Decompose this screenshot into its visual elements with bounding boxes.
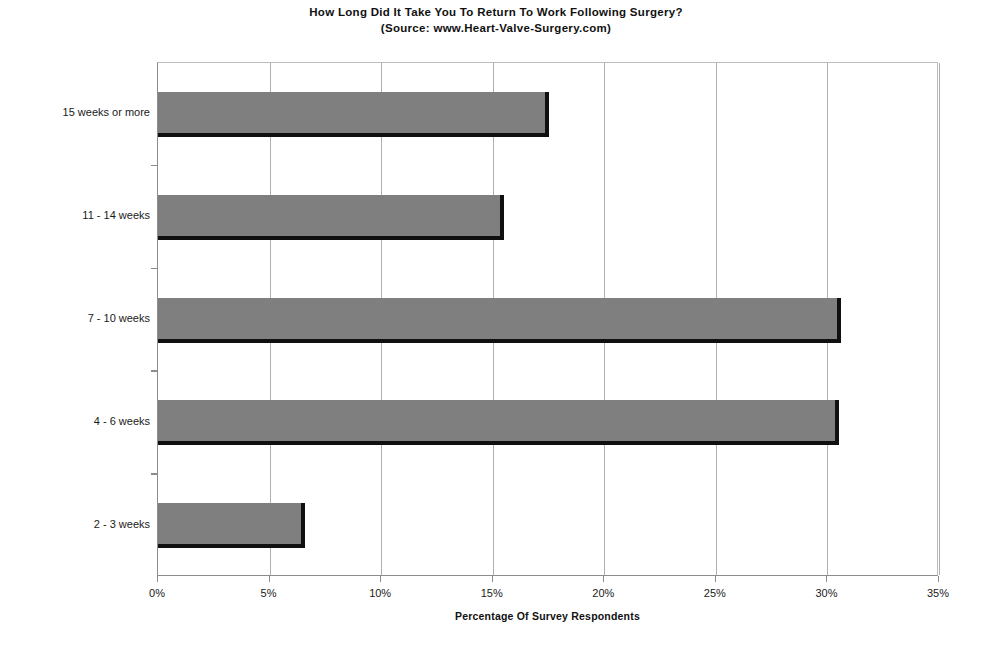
x-axis-tick-mark: [157, 576, 158, 582]
y-axis-tick-mark: [151, 268, 157, 270]
x-axis-tick-label: 5%: [239, 587, 299, 599]
bar-11-14-weeks[interactable]: [158, 195, 504, 240]
y-axis-tick-label: 4 - 6 weeks: [0, 415, 150, 427]
x-axis-tick-label: 30%: [796, 587, 856, 599]
bar-2-3-weeks[interactable]: [158, 503, 305, 548]
y-axis-tick-label: 7 - 10 weeks: [0, 312, 150, 324]
chart-title-line: How Long Did It Take You To Return To Wo…: [0, 4, 992, 20]
x-axis-tick-mark: [938, 576, 939, 582]
x-axis-tick-label: 25%: [685, 587, 745, 599]
y-axis-tick-mark: [151, 165, 157, 167]
x-axis-tick-label: 15%: [462, 587, 522, 599]
x-axis-tick-mark: [715, 576, 716, 582]
y-axis-category-labels: 2 - 3 weeks4 - 6 weeks7 - 10 weeks11 - 1…: [0, 62, 150, 576]
plot-area: [157, 62, 938, 576]
gridline: [939, 63, 940, 575]
x-axis-tick-label: 0%: [127, 587, 187, 599]
x-axis-tick-mark: [603, 576, 604, 582]
x-axis-tick-label: 10%: [350, 587, 410, 599]
chart-subtitle-line: (Source: www.Heart-Valve-Surgery.com): [0, 20, 992, 36]
x-axis-tick-label: 20%: [573, 587, 633, 599]
x-axis-tick-mark: [826, 576, 827, 582]
x-axis-tick-mark: [380, 576, 381, 582]
bar-4-6-weeks[interactable]: [158, 400, 839, 445]
y-axis-tick-label: 2 - 3 weeks: [0, 518, 150, 530]
bar-7-10-weeks[interactable]: [158, 298, 841, 343]
page-title: How Long Did It Take You To Return To Wo…: [0, 4, 992, 36]
y-axis-tick-label: 11 - 14 weeks: [0, 209, 150, 221]
x-axis-tick-label: 35%: [908, 587, 968, 599]
x-axis-title: Percentage Of Survey Respondents: [157, 610, 938, 622]
y-axis-tick-mark: [151, 473, 157, 475]
y-axis-tick-mark: [151, 370, 157, 372]
x-axis-tick-mark: [492, 576, 493, 582]
x-axis-tick-mark: [269, 576, 270, 582]
y-axis-tick-label: 15 weeks or more: [0, 106, 150, 118]
bar-15-weeks-or-more[interactable]: [158, 92, 549, 137]
